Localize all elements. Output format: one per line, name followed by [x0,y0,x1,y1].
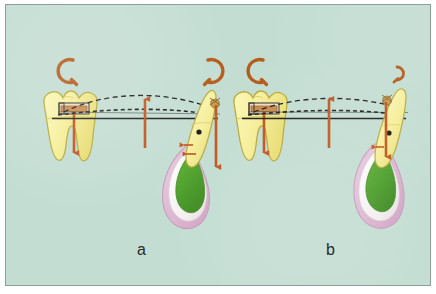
orthodontic-biomechanics-illustration [6,5,430,285]
panel-a-anchor-molar [44,91,97,161]
panel-a-molar-moment-arrow [58,60,76,85]
figure-frame: a b [5,4,431,286]
panel-a-group [44,60,223,229]
panel-label-a: a [137,241,146,259]
panel-b-group [234,60,408,229]
panel-a-canine-moment-arrow [205,60,223,85]
panel-b-molar-moment-arrow [248,60,266,85]
panel-b-canine-moment-arrow [394,67,404,82]
figure-root: a b [0,0,436,294]
panel-a-canine-pulp-dot [196,129,201,134]
panel-b-anchor-molar [234,91,287,161]
panel-label-b: b [326,241,335,259]
